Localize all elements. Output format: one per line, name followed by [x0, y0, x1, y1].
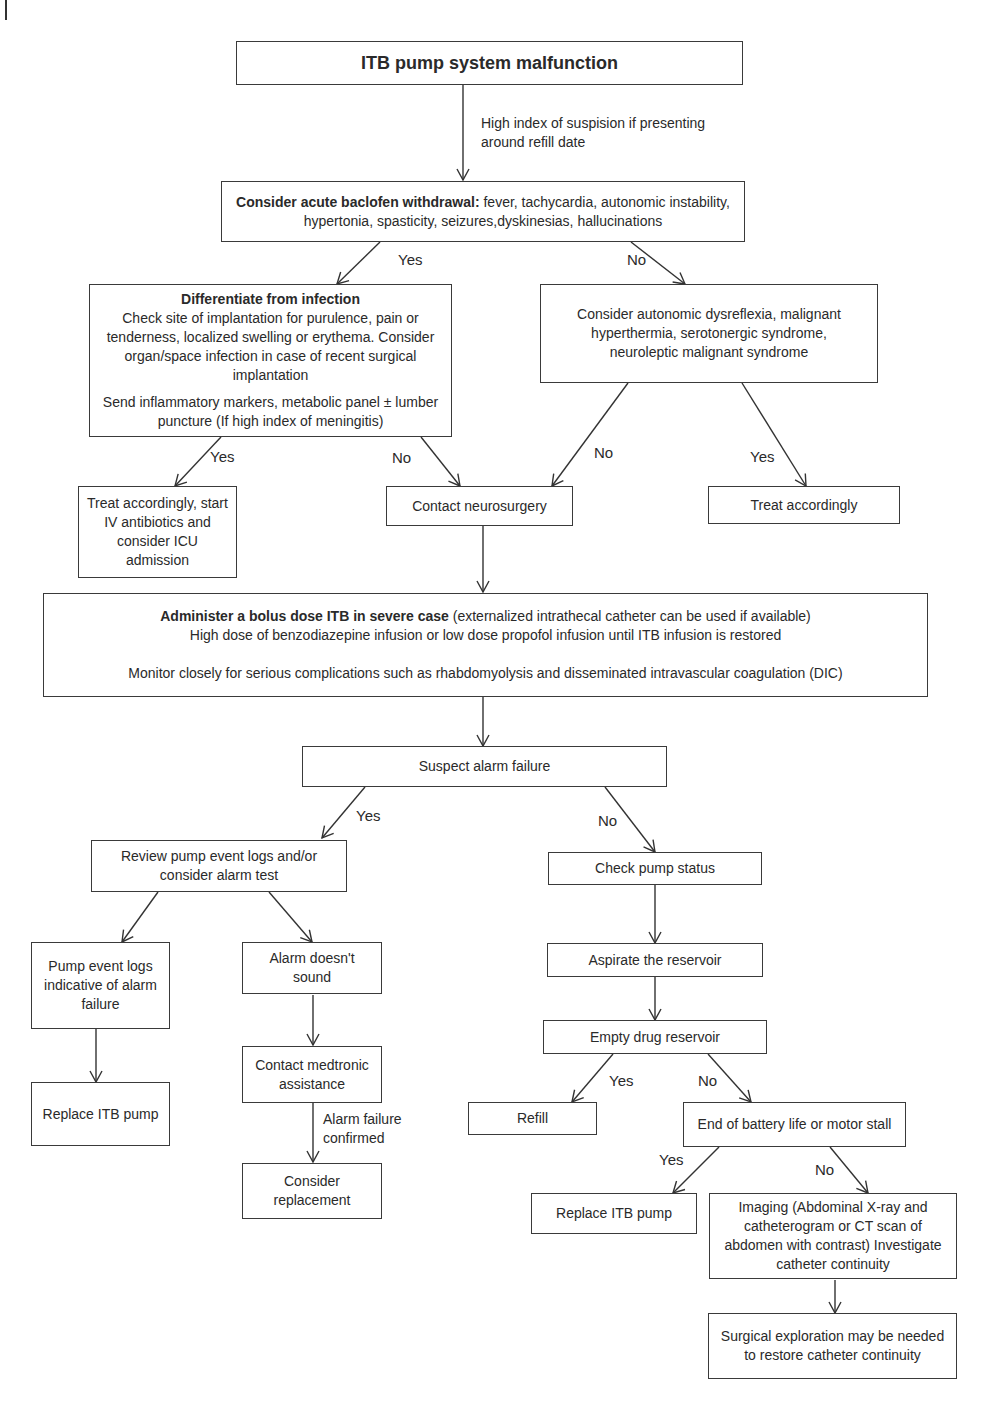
refill-note: High index of suspision if presenting ar…: [481, 114, 751, 152]
edge-label-yes: Yes: [398, 251, 422, 268]
node-alarm-doesnt-sound: Alarm doesn't sound: [242, 942, 382, 994]
start-node-itb-malfunction: ITB pump system malfunction: [236, 41, 743, 85]
bolus-infusion-text: High dose of benzodiazepine infusion or …: [190, 626, 781, 645]
node-baclofen-withdrawal: Consider acute baclofen withdrawal: feve…: [221, 181, 745, 242]
node-review-pump-logs: Review pump event logs and/or consider a…: [91, 840, 347, 892]
node-bolus-dose: Administer a bolus dose ITB in severe ca…: [43, 593, 928, 697]
node-battery-motor-stall: End of battery life or motor stall: [683, 1102, 906, 1147]
edge-label-no: No: [598, 812, 617, 829]
infection-labs-text: Send inflammatory markers, metabolic pan…: [100, 393, 441, 431]
node-refill: Refill: [468, 1102, 597, 1135]
node-replace-itb-pump-left: Replace ITB pump: [31, 1082, 170, 1146]
node-empty-drug-reservoir: Empty drug reservoir: [543, 1020, 767, 1054]
node-differential-diagnosis: Consider autonomic dysreflexia, malignan…: [540, 284, 878, 383]
withdrawal-heading: Consider acute baclofen withdrawal:: [236, 194, 480, 210]
node-replace-itb-pump-right: Replace ITB pump: [531, 1193, 697, 1234]
infection-check-text: Check site of implantation for purulence…: [100, 309, 441, 385]
node-title: ITB pump system malfunction: [361, 54, 618, 73]
node-aspirate-reservoir: Aspirate the reservoir: [547, 943, 763, 977]
node-check-pump-status: Check pump status: [548, 852, 762, 885]
edge-label-yes: Yes: [750, 448, 774, 465]
node-differentiate-infection: Differentiate from infection Check site …: [89, 284, 452, 437]
bolus-monitor-text: Monitor closely for serious complication…: [128, 664, 842, 683]
node-contact-medtronic: Contact medtronic assistance: [242, 1046, 382, 1103]
node-contact-neurosurgery: Contact neurosurgery: [386, 486, 573, 526]
infection-heading: Differentiate from infection: [181, 290, 360, 309]
edge-label-yes: Yes: [609, 1072, 633, 1089]
edge-label-yes: Yes: [210, 448, 234, 465]
edge-label-no: No: [392, 449, 411, 466]
edge-label-no: No: [698, 1072, 717, 1089]
node-treat-accordingly: Treat accordingly: [708, 486, 900, 524]
edge-label-yes: Yes: [659, 1151, 683, 1168]
edge-label-yes: Yes: [356, 807, 380, 824]
edge-label-alarm-confirmed: Alarm failure confirmed: [323, 1110, 423, 1148]
node-imaging: Imaging (Abdominal X-ray and catheterogr…: [709, 1193, 957, 1279]
edge-label-no: No: [594, 444, 613, 461]
node-treat-infection: Treat accordingly, start IV antibiotics …: [78, 486, 237, 578]
edge-label-no: No: [815, 1161, 834, 1178]
node-surgical-exploration: Surgical exploration may be needed to re…: [708, 1313, 957, 1379]
bolus-heading: Administer a bolus dose ITB in severe ca…: [160, 608, 449, 624]
node-logs-indicative: Pump event logs indicative of alarm fail…: [31, 942, 170, 1029]
node-suspect-alarm-failure: Suspect alarm failure: [302, 746, 667, 787]
node-consider-replacement: Consider replacement: [242, 1163, 382, 1219]
bolus-note: (externalized intrathecal catheter can b…: [449, 608, 811, 624]
edge-label-no: No: [627, 251, 646, 268]
